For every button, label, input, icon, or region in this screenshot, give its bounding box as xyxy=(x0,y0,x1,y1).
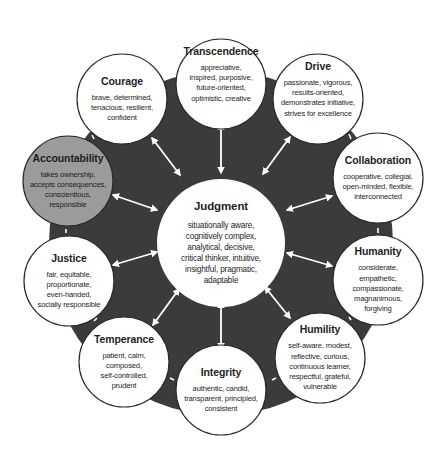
node-title: Temperance xyxy=(94,333,154,345)
node-title: Integrity xyxy=(201,366,242,378)
node-title: Humility xyxy=(300,323,341,335)
node-title: Judgment xyxy=(194,200,248,212)
node-justice: Justice fair, equitable, proportionate, … xyxy=(24,236,114,326)
node-description: situationally aware, cognitively complex… xyxy=(181,220,261,286)
node-courage: Courage brave, determined, tenacious, re… xyxy=(77,54,167,144)
node-description: authentic, candid, transparent, principl… xyxy=(184,384,258,415)
node-humility: Humility self-aware, modest, reflective,… xyxy=(275,313,365,403)
node-title: Humanity xyxy=(354,245,401,257)
character-wheel-diagram: Judgment situationally aware, cognitivel… xyxy=(0,0,443,457)
node-title: Drive xyxy=(305,60,331,72)
node-description: patient, calm, composed, self-controlled… xyxy=(101,351,148,392)
node-transcendence: Transcendence appreciative, inspired, pu… xyxy=(176,39,266,129)
node-drive: Drive passionate, vigorous, results-orie… xyxy=(271,54,365,144)
node-temperance: Temperance patient, calm, composed, self… xyxy=(79,317,169,407)
node-title: Collaboration xyxy=(345,154,411,166)
node-integrity: Integrity authentic, candid, transparent… xyxy=(174,345,268,435)
node-collaboration: Collaboration cooperative, collegial, op… xyxy=(333,133,423,223)
node-description: passionate, vigorous, results-oriented, … xyxy=(281,78,355,119)
node-description: takes ownership, accepts consequences, c… xyxy=(30,170,106,211)
node-description: cooperative, collegial, open-minded, fle… xyxy=(343,172,414,203)
node-title: Justice xyxy=(51,252,87,264)
node-title: Accountability xyxy=(33,152,104,164)
node-title: Courage xyxy=(101,75,143,87)
node-title: Transcendence xyxy=(183,45,258,57)
node-judgment: Judgment situationally aware, cognitivel… xyxy=(157,179,285,307)
node-description: fair, equitable, proportionate, even-han… xyxy=(38,270,101,311)
node-description: self-aware, modest, reflective, curious,… xyxy=(288,341,351,392)
node-accountability: Accountability takes ownership, accepts … xyxy=(22,136,114,226)
node-description: appreciative, inspired, purposive, futur… xyxy=(190,63,253,104)
node-description: brave, determined, tenacious, resilient,… xyxy=(91,93,153,124)
node-humanity: Humanity considerate, empathetic, compas… xyxy=(333,235,423,325)
node-description: considerate, empathetic, compassionate, … xyxy=(352,263,403,314)
